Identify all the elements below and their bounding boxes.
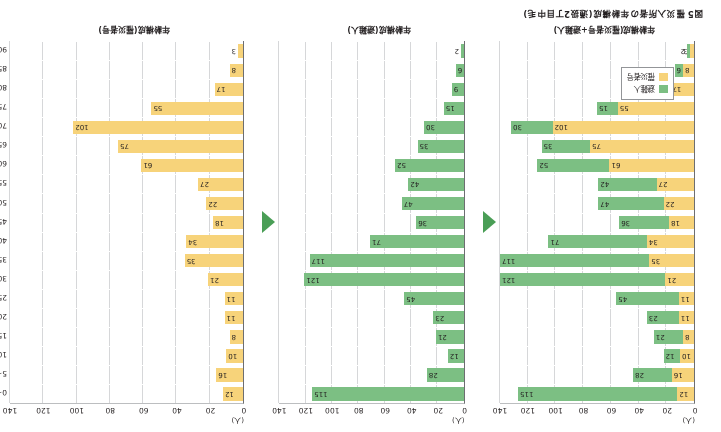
- bar-value-label: 35: [544, 143, 553, 150]
- x-tick-100: 100: [325, 406, 339, 415]
- bar-segment: 117: [500, 254, 649, 267]
- x-tick-120: 120: [521, 406, 535, 415]
- bar-segment: 36: [619, 216, 669, 229]
- bar-value-label: 42: [410, 181, 419, 188]
- bar-row: 12115: [500, 384, 694, 403]
- bar-value-label: 16: [674, 371, 683, 378]
- bar-row: 815~19歳: [10, 327, 243, 346]
- bar-segment: 21: [654, 330, 683, 343]
- bar-value-label: 117: [312, 257, 325, 264]
- bar-segment: 102: [553, 121, 694, 134]
- bar-segment: 61: [609, 159, 694, 172]
- bar-value-label: 34: [188, 238, 197, 245]
- bar-value-label: 21: [667, 276, 676, 283]
- bar-value-label: 2: [455, 48, 459, 55]
- bar-rows-mid: 11528122123451211177136474252353015962: [279, 41, 463, 403]
- bar-segment: 17: [215, 83, 243, 96]
- bar-value-label: 61: [611, 162, 620, 169]
- bar-segment: 115: [312, 387, 463, 400]
- x-tick-20: 20: [662, 406, 672, 415]
- bar-value-label: 21: [656, 333, 665, 340]
- bar-row: 3471: [500, 232, 694, 251]
- bar-segment: 47: [402, 197, 464, 210]
- bar-segment: 11: [679, 292, 694, 305]
- bar-value-label: 27: [200, 181, 209, 188]
- bar-value-label: 36: [418, 219, 427, 226]
- bar-value-label: 28: [635, 371, 644, 378]
- x-tick-0: 0: [462, 406, 467, 415]
- bar-value-label: 102: [555, 124, 568, 131]
- category-label: 0~4歳: [0, 388, 7, 399]
- x-tick-80: 80: [579, 406, 589, 415]
- category-label: 30~34歳: [0, 274, 7, 285]
- bar-value-label: 6: [458, 67, 462, 74]
- bar-value-label: 12: [666, 352, 675, 359]
- category-label: 20~24歳: [0, 312, 7, 323]
- bar-row: 28: [279, 365, 463, 384]
- bar-value-label: 23: [435, 314, 444, 321]
- bar-row: 390~94歳: [10, 41, 243, 60]
- bar-value-label: 27: [659, 181, 668, 188]
- bar-segment: 35: [418, 140, 464, 153]
- bar-segment: 8: [230, 64, 243, 77]
- bar-segment: 27: [657, 178, 694, 191]
- bar-value-label: 6: [677, 67, 681, 74]
- bar-value-label: 2: [681, 48, 685, 55]
- bar-value-label: 55: [620, 105, 629, 112]
- bar-row: 1123: [500, 308, 694, 327]
- bar-segment: 12: [664, 349, 681, 362]
- bar-value-label: 34: [649, 238, 658, 245]
- arrow-cell-left: [479, 21, 500, 424]
- bar-segment: 18: [213, 216, 243, 229]
- bar-segment: 12: [223, 387, 243, 400]
- bar-value-label: 47: [600, 200, 609, 207]
- bar-row: 117: [279, 251, 463, 270]
- bar-value-label: 47: [404, 200, 413, 207]
- bar-segment: 115: [518, 387, 677, 400]
- bar-segment: 47: [598, 197, 663, 210]
- bar-segment: 28: [633, 368, 672, 381]
- bar-row: 6160~64歳: [10, 155, 243, 174]
- x-tick-0: 0: [242, 406, 247, 415]
- bar-segment: 23: [647, 311, 679, 324]
- bar-segment: 3: [690, 44, 694, 57]
- bar-rows-right: 120~4歳165~9歳1010~14歳815~19歳1120~24歳1125~…: [10, 41, 243, 403]
- bar-value-label: 8: [232, 67, 236, 74]
- legend-item-evacuees: 避難人: [627, 84, 668, 95]
- bar-row: 1780~84歳: [10, 79, 243, 98]
- bar-segment: 2: [461, 44, 464, 57]
- bar-value-label: 71: [372, 238, 381, 245]
- bar-segment: 117: [310, 254, 464, 267]
- figure-title: 図5 罹災入所者の年齢構成(通扱2丁目中毛): [10, 9, 709, 21]
- bar-value-label: 42: [600, 181, 609, 188]
- bar-row: 12: [279, 346, 463, 365]
- panel-caption-combined: 年齢構成(罹災者号+避難人): [500, 21, 709, 41]
- bar-row: 1628: [500, 365, 694, 384]
- category-label: 60~64歳: [0, 160, 7, 171]
- x-tick-80: 80: [354, 406, 364, 415]
- bar-row: 71: [279, 232, 463, 251]
- panel-caption-victims: 年齢構成(罹災者号): [10, 21, 258, 41]
- bar-value-label: 75: [592, 143, 601, 150]
- legend-label-victims: 罹災者号: [627, 72, 655, 83]
- bar-row: 121: [279, 270, 463, 289]
- x-axis-mid: 020406080100120140: [279, 404, 464, 415]
- bar-segment: 102: [73, 121, 243, 134]
- bar-segment: 12: [448, 349, 464, 362]
- bar-value-label: 16: [218, 371, 227, 378]
- bar-segment: 42: [408, 178, 463, 191]
- bar-row: 2247: [500, 193, 694, 212]
- bar-segment: 10: [226, 349, 243, 362]
- panel-caption-evacuees: 年齢構成(避難人): [279, 21, 478, 41]
- category-label: 5~9歳: [0, 369, 7, 380]
- bar-value-label: 121: [306, 276, 319, 283]
- x-tick-100: 100: [549, 406, 563, 415]
- plot-area-right: 120~4歳165~9歳1010~14歳815~19歳1120~24歳1125~…: [10, 41, 244, 404]
- bar-value-label: 18: [215, 219, 224, 226]
- bar-row: 1010~14歳: [10, 346, 243, 365]
- category-label: 50~54歳: [0, 198, 7, 209]
- bar-row: 15: [279, 98, 463, 117]
- x-tick-40: 40: [407, 406, 417, 415]
- bar-row: 45: [279, 289, 463, 308]
- bar-value-label: 11: [681, 314, 690, 321]
